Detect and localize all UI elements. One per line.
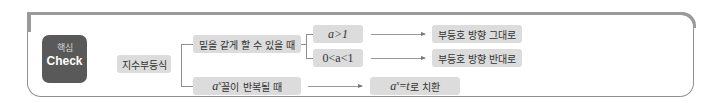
result-same-direction: 부등호 방향 그대로 [432, 25, 522, 43]
case-a-greater-1: a>1 [313, 25, 363, 43]
sub-bracket-bottom [306, 58, 313, 59]
branch-same-base: 밑을 같게 할 수 있을 때 [193, 35, 301, 53]
arrow-icon [371, 34, 425, 35]
case-a-between-0-1: 0<a<1 [313, 49, 363, 67]
result-substitution: ax=t 로 치환 [370, 77, 460, 95]
check-badge: 핵심 Check [42, 35, 87, 83]
badge-english: Check [42, 54, 87, 68]
branch-repeated-math: ax [212, 79, 221, 94]
sub-bracket-top [306, 34, 313, 35]
result-label: 부등호 방향 반대로 [438, 51, 516, 66]
frame-corner-decoration [680, 12, 696, 28]
branch-same-base-label: 밑을 같게 할 수 있을 때 [199, 37, 296, 52]
branch-repeated-form: ax 꼴이 반복될 때 [193, 77, 301, 95]
sub-bracket-vertical [306, 34, 307, 59]
substitution-math: ax=t [390, 79, 409, 94]
root-label: 지수부등식 [122, 57, 167, 72]
case-condition: 0<a<1 [323, 51, 354, 66]
bracket-bottom [181, 86, 193, 87]
sub-bracket-stem [301, 44, 306, 45]
case-condition: a>1 [328, 27, 348, 42]
badge-korean: 핵심 [42, 43, 87, 54]
branch-repeated-label: 꼴이 반복될 때 [221, 79, 281, 94]
substitution-label: 로 치환 [410, 79, 440, 94]
bracket-top [181, 44, 193, 45]
root-node: 지수부등식 [117, 55, 171, 73]
bracket-vertical [181, 44, 182, 87]
result-reverse-direction: 부등호 방향 반대로 [432, 49, 522, 67]
arrow-icon [371, 58, 425, 59]
result-label: 부등호 방향 그대로 [438, 27, 516, 42]
arrow-icon [308, 86, 362, 87]
frame-tab-decoration [27, 12, 31, 32]
